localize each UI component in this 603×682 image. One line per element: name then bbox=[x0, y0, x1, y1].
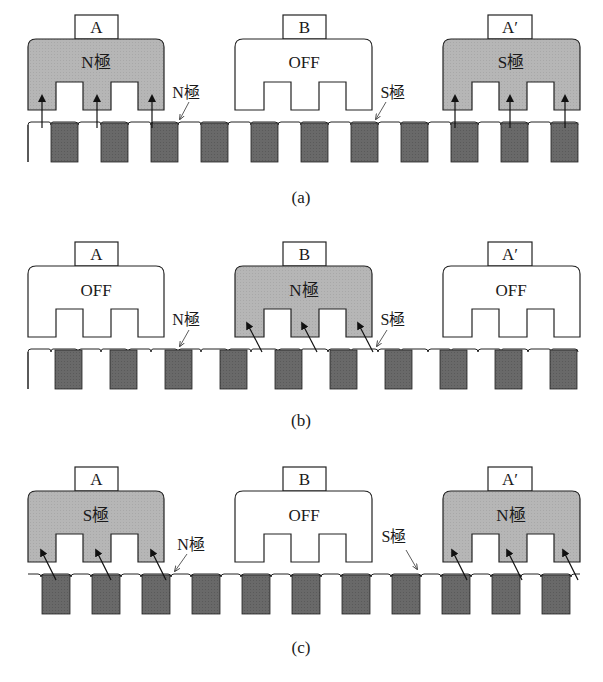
annotation-pointer-icon bbox=[180, 102, 189, 119]
stator-a-prime-state-label: OFF bbox=[495, 281, 526, 300]
stator-a: A S極 bbox=[28, 467, 164, 562]
stator-a-body bbox=[28, 491, 164, 562]
rotor-tooth bbox=[385, 350, 412, 389]
rotor-tooth bbox=[292, 575, 320, 614]
annotation-n-pole: N極 bbox=[177, 536, 205, 553]
rotor-tooth bbox=[492, 575, 520, 614]
rotor-tooth bbox=[495, 350, 522, 389]
rotor-tooth bbox=[142, 575, 170, 614]
annotation-n-pole: N極 bbox=[172, 311, 200, 328]
rotor-tooth bbox=[55, 350, 82, 389]
rotor-tooth bbox=[192, 575, 220, 614]
stator-a-body bbox=[28, 39, 164, 110]
stator-a-prime-body bbox=[443, 39, 580, 110]
stator-b-state-label: OFF bbox=[288, 506, 319, 525]
rotor-tooth bbox=[501, 123, 528, 162]
rotor-tooth bbox=[51, 123, 78, 162]
stator-a-prime-body bbox=[443, 491, 580, 562]
rotor-tooth bbox=[275, 350, 302, 389]
stator-b: B N極 bbox=[235, 242, 372, 337]
rotor-tooth bbox=[251, 123, 278, 162]
panel-caption: (a) bbox=[292, 188, 311, 207]
rotor-tooth bbox=[165, 350, 192, 389]
stator-a-prime-tab-label: A′ bbox=[502, 245, 518, 264]
stator-a-body bbox=[28, 266, 164, 337]
annotation-pointer-icon bbox=[175, 554, 187, 571]
stator-a-prime: A′ OFF bbox=[443, 242, 580, 337]
annotation-n-pole: N極 bbox=[172, 84, 200, 101]
annotation-pointer-icon bbox=[406, 550, 417, 569]
stator-a-prime-tab-label: A′ bbox=[502, 18, 518, 37]
panel-caption: (b) bbox=[291, 411, 311, 430]
stator-a-prime-body bbox=[443, 266, 580, 337]
rotor-tooth bbox=[342, 575, 370, 614]
stator-a-prime-state-label: S極 bbox=[498, 53, 524, 72]
rotor-tooth bbox=[451, 123, 478, 162]
stator-b-tab-label: B bbox=[299, 18, 310, 37]
panel-a: A N極 B OFF A′ S極 bbox=[28, 15, 580, 207]
stator-a-prime-tab-label: A′ bbox=[502, 470, 518, 489]
stator-a-state-label: N極 bbox=[81, 53, 110, 72]
stator-b-state-label: N極 bbox=[289, 281, 318, 300]
rotor-tooth bbox=[301, 123, 328, 162]
rotor-tooth bbox=[550, 350, 577, 389]
rotor-tooth bbox=[201, 123, 228, 162]
stator-b-body bbox=[235, 491, 372, 562]
rotor-tooth bbox=[42, 575, 70, 614]
annotation-s-pole: S極 bbox=[382, 528, 407, 545]
stator-a: A OFF bbox=[28, 242, 164, 337]
annotation-pointer-icon bbox=[180, 330, 189, 346]
rotor-tooth bbox=[110, 350, 137, 389]
rotor-tooth bbox=[220, 350, 247, 389]
rotor-tooth bbox=[330, 350, 357, 389]
stator-a-state-label: OFF bbox=[80, 281, 111, 300]
stator-a-tab-label: A bbox=[90, 470, 103, 489]
stator-b-tab-label: B bbox=[299, 470, 310, 489]
stator-a-prime: A′ S極 bbox=[443, 15, 580, 110]
rotor-tooth bbox=[101, 123, 128, 162]
stator-a: A N極 bbox=[28, 15, 164, 110]
rotor-strip-a bbox=[28, 122, 578, 162]
rotor-tooth bbox=[442, 575, 470, 614]
rotor-tooth bbox=[440, 350, 467, 389]
stator-b-tab-label: B bbox=[299, 245, 310, 264]
annotation-pointer-icon bbox=[377, 330, 387, 346]
stator-b-body bbox=[235, 39, 372, 110]
annotation-s-pole: S極 bbox=[381, 84, 406, 101]
stator-a-tab-label: A bbox=[90, 245, 103, 264]
rotor-tooth bbox=[542, 575, 570, 614]
stepper-motor-diagram: A N極 B OFF A′ S極 bbox=[0, 0, 603, 682]
panel-c: A S極 B OFF A′ N極 bbox=[28, 467, 580, 657]
stator-b: B OFF bbox=[235, 467, 372, 562]
rotor-tooth bbox=[392, 575, 420, 614]
rotor-tooth bbox=[551, 123, 578, 162]
rotor-tooth bbox=[351, 123, 378, 162]
panel-caption: (c) bbox=[292, 638, 311, 657]
rotor-tooth bbox=[92, 575, 120, 614]
stator-b: B OFF bbox=[235, 15, 372, 110]
stator-a-prime-state-label: N極 bbox=[496, 506, 525, 525]
stator-a-prime: A′ N極 bbox=[443, 467, 580, 562]
panel-b: A OFF B N極 A′ OFF bbox=[28, 242, 580, 430]
rotor-tooth bbox=[242, 575, 270, 614]
annotation-pointer-icon bbox=[376, 102, 386, 119]
stator-a-tab-label: A bbox=[90, 18, 103, 37]
annotation-s-pole: S極 bbox=[381, 311, 406, 328]
stator-b-state-label: OFF bbox=[288, 53, 319, 72]
stator-a-state-label: S極 bbox=[83, 506, 109, 525]
rotor-tooth bbox=[401, 123, 428, 162]
rotor-tooth bbox=[151, 123, 178, 162]
rotor-strip-b bbox=[28, 349, 578, 389]
